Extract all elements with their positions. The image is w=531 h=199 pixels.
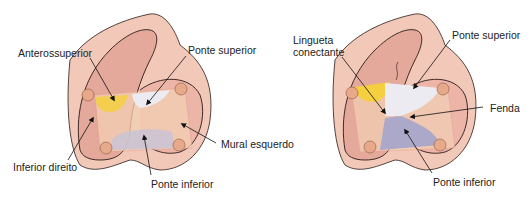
label-ponte-inferior-right: Ponte inferior xyxy=(433,176,495,188)
left-heart-diagram xyxy=(68,14,216,175)
papillary-br xyxy=(173,139,185,151)
label-anterosuperior: Anterossuperior xyxy=(18,47,92,59)
label-conectante: conectante xyxy=(293,46,344,58)
papillary-bl-r xyxy=(364,141,376,153)
papillary-tr xyxy=(175,83,187,95)
label-mural-esquerdo: Mural esquerdo xyxy=(221,138,294,150)
label-ponte-inferior-left: Ponte inferior xyxy=(151,178,213,190)
label-inferior-direito: Inferior direito xyxy=(13,161,77,173)
papillary-tr-r xyxy=(437,83,449,95)
label-ponte-superior-right: Ponte superior xyxy=(452,29,520,41)
label-fenda: Fenda xyxy=(490,102,520,114)
label-lingueta: Lingueta xyxy=(293,34,333,46)
label-ponte-superior-left: Ponte superior xyxy=(188,44,256,56)
papillary-tl-r xyxy=(346,87,358,99)
papillary-br-r xyxy=(434,139,446,151)
papillary-bl xyxy=(100,142,112,154)
papillary-tl xyxy=(82,89,94,101)
